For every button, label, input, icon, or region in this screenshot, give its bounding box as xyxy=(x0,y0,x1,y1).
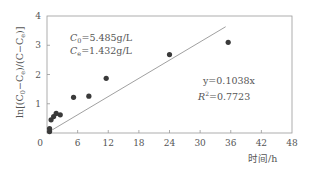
annotation-r2: R2=0.7723 xyxy=(197,90,250,102)
annotation-ce: Ce=1.432g/L xyxy=(70,45,133,58)
y-axis-label: ln[(C0−Ce)/(C−Ce)] xyxy=(14,27,27,118)
y-tick-label: 3 xyxy=(35,40,41,50)
data-point xyxy=(86,94,91,99)
x-tick-label: 0 xyxy=(37,138,43,148)
data-point xyxy=(226,40,231,45)
data-point xyxy=(104,76,109,81)
y-axis-ticks: 1234 xyxy=(35,11,50,109)
x-tick-label: 48 xyxy=(286,138,298,148)
annotation-equation: y=0.1038x xyxy=(202,75,256,86)
x-tick-label: 42 xyxy=(256,138,267,148)
data-point xyxy=(47,126,52,131)
data-point xyxy=(71,95,76,100)
y-tick-label: 1 xyxy=(35,99,41,109)
annotation-c0: C0=5.485g/L xyxy=(70,32,133,45)
x-axis-label: 时间/h xyxy=(248,153,277,164)
data-point xyxy=(58,112,63,117)
x-tick-label: 12 xyxy=(103,138,114,148)
x-tick-label: 30 xyxy=(194,138,206,148)
x-tick-label: 24 xyxy=(164,138,176,148)
scatter-chart: 0612182430364248 1234 C0=5.485g/L Ce=1.4… xyxy=(0,0,313,173)
x-tick-label: 36 xyxy=(225,138,237,148)
x-tick-label: 6 xyxy=(75,138,81,148)
y-tick-label: 4 xyxy=(35,11,41,21)
data-point xyxy=(167,52,172,57)
x-tick-label: 18 xyxy=(133,138,145,148)
y-tick-label: 2 xyxy=(35,70,41,80)
